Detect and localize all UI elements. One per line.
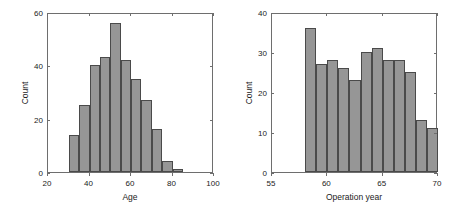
x-tick-mark — [437, 173, 438, 176]
y-tick-mark — [271, 93, 274, 94]
y-tick-mark — [271, 53, 274, 54]
histogram-bar — [327, 60, 338, 172]
y-tick-mark — [271, 173, 274, 174]
operation-year-plot-area — [271, 13, 437, 173]
histogram-bar — [110, 23, 120, 172]
y-tick-mark-right — [434, 173, 437, 174]
y-tick-label: 40 — [241, 9, 267, 18]
histogram-bar — [349, 80, 360, 172]
age-bars — [48, 14, 212, 172]
x-tick-mark-top — [89, 13, 90, 16]
x-tick-mark-top — [326, 13, 327, 16]
x-tick-label: 80 — [167, 179, 176, 188]
x-tick-mark — [130, 173, 131, 176]
operation-year-xlabel: Operation year — [326, 192, 382, 202]
x-tick-mark-top — [130, 13, 131, 16]
y-tick-mark — [47, 120, 50, 121]
x-tick-mark-top — [382, 13, 383, 16]
histogram-bar — [90, 65, 100, 172]
y-tick-label: 60 — [17, 9, 43, 18]
y-tick-mark-right — [434, 93, 437, 94]
y-tick-mark-right — [434, 133, 437, 134]
histogram-bar — [338, 68, 349, 172]
x-tick-label: 100 — [206, 179, 219, 188]
histogram-bar — [394, 60, 405, 172]
x-tick-mark-top — [437, 13, 438, 16]
x-tick-label: 20 — [43, 179, 52, 188]
histogram-bar — [361, 52, 372, 172]
age-xlabel: Age — [122, 192, 137, 202]
histogram-bar — [316, 64, 327, 172]
y-tick-mark — [47, 13, 50, 14]
histogram-bar — [100, 57, 110, 172]
x-tick-label: 60 — [322, 179, 331, 188]
y-tick-mark-right — [434, 53, 437, 54]
y-tick-mark-right — [210, 173, 213, 174]
y-tick-mark-right — [210, 120, 213, 121]
x-tick-mark — [89, 173, 90, 176]
y-tick-mark-right — [434, 13, 437, 14]
histogram-bar — [121, 60, 131, 172]
age-plot-area — [47, 13, 213, 173]
y-tick-mark — [271, 13, 274, 14]
y-tick-label: 10 — [241, 129, 267, 138]
histogram-bar — [152, 129, 162, 172]
histogram-figure: 204060801000204060 Age Count 55606570010… — [0, 0, 451, 213]
x-tick-label: 70 — [433, 179, 442, 188]
y-tick-label: 0 — [17, 169, 43, 178]
histogram-bar — [416, 120, 427, 172]
histogram-bar — [131, 79, 141, 172]
x-tick-mark — [326, 173, 327, 176]
x-tick-label: 65 — [377, 179, 386, 188]
x-tick-label: 55 — [267, 179, 276, 188]
x-tick-mark-top — [213, 13, 214, 16]
histogram-bar — [162, 161, 172, 172]
x-tick-label: 40 — [84, 179, 93, 188]
histogram-bar — [79, 105, 89, 172]
x-tick-mark-top — [172, 13, 173, 16]
histogram-bar — [405, 72, 416, 172]
y-tick-mark — [47, 173, 50, 174]
x-tick-mark — [382, 173, 383, 176]
histogram-bar — [141, 100, 151, 172]
y-tick-mark-right — [210, 66, 213, 67]
age-ylabel: Count — [20, 63, 30, 123]
x-tick-label: 60 — [126, 179, 135, 188]
y-tick-mark — [47, 66, 50, 67]
age-histogram-panel: 204060801000204060 Age Count — [0, 0, 226, 213]
operation-year-bars — [272, 14, 436, 172]
operation-year-histogram-panel: 55606570010203040 Operation year Count — [226, 0, 451, 213]
histogram-bar — [372, 48, 383, 172]
y-tick-label: 30 — [241, 49, 267, 58]
y-tick-mark-right — [210, 13, 213, 14]
histogram-bar — [69, 135, 79, 172]
x-tick-mark — [213, 173, 214, 176]
x-tick-mark — [172, 173, 173, 176]
operation-year-ylabel: Count — [244, 63, 254, 123]
histogram-bar — [173, 169, 183, 172]
y-tick-mark — [271, 133, 274, 134]
histogram-bar — [383, 60, 394, 172]
histogram-bar — [305, 28, 316, 172]
histogram-bar — [427, 128, 438, 172]
y-tick-label: 0 — [241, 169, 267, 178]
